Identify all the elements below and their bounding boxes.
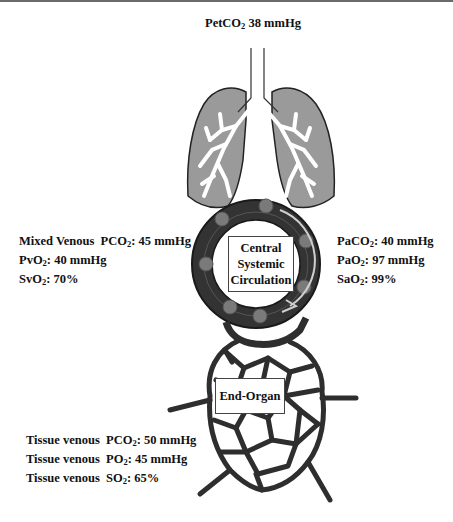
tissue-venous-po2: Tissue venous PO2: 45 mmHg xyxy=(26,450,196,469)
end-organ-box: End-Organ xyxy=(215,378,285,414)
label-suffix: : 99% xyxy=(364,272,396,286)
lungs-icon xyxy=(188,48,335,208)
tissue-venous-pco2: Tissue venous PCO2: 50 mmHg xyxy=(26,431,196,450)
arterial-so2: SaO2: 99% xyxy=(337,270,434,289)
label-suffix: : 40 mmHg xyxy=(47,253,107,267)
box-line: Central xyxy=(241,240,282,256)
label-prefix: Tissue venous PCO xyxy=(26,433,132,447)
label-prefix: Tissue venous SO xyxy=(26,471,123,485)
label-prefix: SvO xyxy=(19,272,42,286)
label-prefix: SaO xyxy=(337,272,360,286)
label-suffix: : 45 mmHg xyxy=(128,452,188,466)
label-suffix: : 50 mmHg xyxy=(137,433,197,447)
label-prefix: PetCO xyxy=(205,16,241,30)
label-prefix: PvO xyxy=(19,253,43,267)
box-label: End-Organ xyxy=(219,388,280,404)
mixed-venous-so2: SvO2: 70% xyxy=(19,270,191,289)
box-line: Systemic xyxy=(237,256,284,272)
label-suffix: : 65% xyxy=(127,471,159,485)
label-suffix: : 40 mmHg xyxy=(374,234,434,248)
mixed-venous-pco2: Mixed Venous PCO2: 45 mmHg xyxy=(19,232,191,251)
label-prefix: Tissue venous PO xyxy=(26,452,123,466)
label-suffix: : 45 mmHg xyxy=(131,234,191,248)
arterial-values: PaCO2: 40 mmHg PaO2: 97 mmHg SaO2: 99% xyxy=(337,232,434,289)
box-line: Circulation xyxy=(231,272,292,288)
label-prefix: PaO xyxy=(337,253,361,267)
label-suffix: : 70% xyxy=(46,272,78,286)
label-prefix: Mixed Venous PCO xyxy=(19,234,127,248)
label-suffix: 38 mmHg xyxy=(245,16,301,30)
central-systemic-circulation-box: Central Systemic Circulation xyxy=(228,236,294,292)
petco2-label: PetCO2 38 mmHg xyxy=(205,14,301,33)
tissue-venous-so2: Tissue venous SO2: 65% xyxy=(26,469,196,488)
arterial-po2: PaO2: 97 mmHg xyxy=(337,251,434,270)
tissue-venous-values: Tissue venous PCO2: 50 mmHg Tissue venou… xyxy=(26,431,196,488)
arterial-pco2: PaCO2: 40 mmHg xyxy=(337,232,434,251)
mixed-venous-po2: PvO2: 40 mmHg xyxy=(19,251,191,270)
capillary-network-icon xyxy=(170,340,356,500)
label-suffix: : 97 mmHg xyxy=(365,253,425,267)
label-prefix: PaCO xyxy=(337,234,370,248)
mixed-venous-values: Mixed Venous PCO2: 45 mmHg PvO2: 40 mmHg… xyxy=(19,232,191,289)
